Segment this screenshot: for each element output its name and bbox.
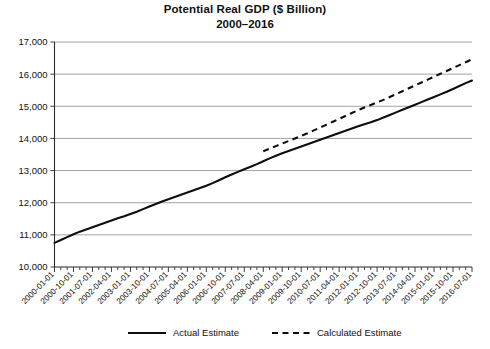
y-axis-tick-label: 14,000 [18,133,47,144]
y-axis-tick-labels: 10,00011,00012,00013,00014,00015,00016,0… [18,36,47,272]
legend-label: Calculated Estimate [317,327,401,338]
legend-item-calculated-estimate: Calculated Estimate [272,327,401,338]
y-axis-tick-label: 13,000 [18,165,47,176]
chart-plot: 10,00011,00012,00013,00014,00015,00016,0… [0,0,490,349]
y-axis-tick-label: 16,000 [18,69,47,80]
x-axis-tick-labels: 2000-01-012000-10-012001-07-012002-04-01… [20,270,474,306]
series-line-calculated-estimate [263,59,472,151]
chart-legend: Actual EstimateCalculated Estimate [128,327,401,338]
y-axis-tick-label: 15,000 [18,101,47,112]
y-axis-tick-label: 17,000 [18,36,47,47]
series-line-actual-estimate [55,81,473,243]
gridlines [55,42,473,235]
y-axis-tick-label: 12,000 [18,197,47,208]
y-axis-tick-label: 10,000 [18,261,47,272]
y-axis-tick-label: 11,000 [19,229,47,240]
legend-label: Actual Estimate [173,327,239,338]
y-axis-tick-marks [51,42,55,267]
legend-item-actual-estimate: Actual Estimate [128,327,239,338]
chart-container: Potential Real GDP ($ Billion) 2000–2016… [0,0,490,349]
